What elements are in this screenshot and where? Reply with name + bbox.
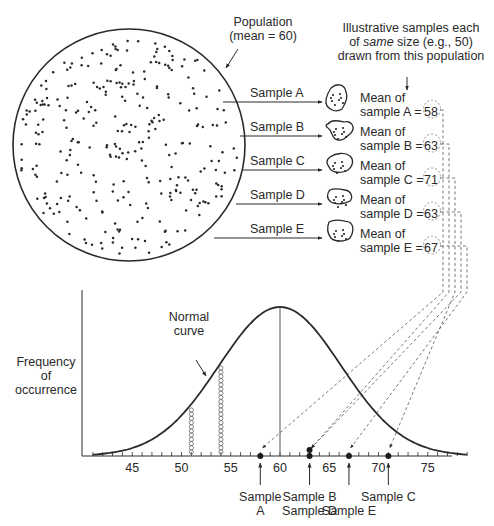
- x-tick-label: 75: [416, 461, 440, 475]
- x-tick-label: 50: [170, 461, 194, 475]
- x-tick-label: 70: [367, 461, 391, 475]
- sample-d-point: [307, 447, 313, 453]
- sample-c-arrow-label: Sample C: [250, 154, 305, 168]
- population-label: Population (mean = 60): [228, 15, 298, 43]
- axis-label-line: A: [235, 504, 285, 518]
- sample-e-mean-value: 67: [424, 241, 438, 255]
- population-label-line1: Population: [228, 15, 298, 29]
- axis-label-sample-e: Sample E: [319, 504, 379, 518]
- sample-e-arrow-label: Sample E: [250, 222, 304, 236]
- y-axis-label-line1: Frequency: [12, 355, 80, 369]
- axis-label-line: Sample E: [319, 504, 379, 518]
- header-text: size (e.g., 50): [394, 35, 473, 49]
- axis-label-line: Sample C: [358, 490, 418, 504]
- axis-label-line: Sample: [235, 490, 285, 504]
- y-axis-label-line2: of: [12, 369, 80, 383]
- sample-a-blob: [326, 85, 347, 111]
- sample-e-point: [346, 453, 352, 459]
- samples-header-line1: Illustrative samples each: [336, 21, 486, 35]
- population-label-line2: (mean = 60): [228, 29, 298, 43]
- sample-d-mean-value: 63: [424, 207, 438, 221]
- population-pointer-arrow: [226, 49, 238, 68]
- axis-label-sample-a: SampleA: [235, 490, 285, 518]
- x-tick-label: 55: [219, 461, 243, 475]
- curve-label-line1: Normal: [164, 310, 214, 324]
- samples-header-line2: of same size (e.g., 50): [336, 35, 486, 49]
- y-axis-label: Frequency of occurrence: [12, 355, 80, 397]
- axis-label-sample-c: Sample C: [358, 490, 418, 504]
- sample-a-mean-eq: sample A =: [360, 105, 422, 119]
- chart: [82, 290, 467, 485]
- sample-a-arrow-label: Sample A: [250, 86, 304, 100]
- x-tick-label: 45: [120, 461, 144, 475]
- curve-label: Normal curve: [164, 310, 214, 338]
- sample-c-mean-label: Mean of: [360, 159, 405, 173]
- diagram-canvas: [0, 0, 494, 526]
- header-emphasis: same: [363, 35, 394, 49]
- sample-a-mean-label: Mean of: [360, 91, 405, 105]
- sample-b-mean-value: 63: [424, 139, 438, 153]
- sample-c-mean-eq: sample C =: [360, 173, 424, 187]
- sample-c-blob: [327, 153, 353, 172]
- x-tick-label: 65: [317, 461, 341, 475]
- highlight-columns: [189, 366, 223, 454]
- sample-b-mean-eq: sample B =: [360, 139, 423, 153]
- sample-b-blob: [326, 121, 353, 140]
- samples-header-line3: drawn from this population: [336, 49, 486, 63]
- sample-a-mean-value: 58: [424, 105, 438, 119]
- sample-b-mean-label: Mean of: [360, 125, 405, 139]
- sample-e-mean-eq: sample E =: [360, 241, 423, 255]
- sample-d-mean-label: Mean of: [360, 193, 405, 207]
- sample-c-mean-value: 71: [424, 173, 438, 187]
- sampling-distribution-diagram: Population (mean = 60) Illustrative samp…: [0, 0, 494, 526]
- sample-e-blob: [328, 220, 353, 241]
- sample-d-mean-eq: sample D =: [360, 207, 424, 221]
- sample-b-point: [307, 453, 313, 459]
- samples-header: Illustrative samples each of same size (…: [336, 21, 486, 63]
- sample-b-arrow-label: Sample B: [250, 120, 304, 134]
- sample-c-point: [385, 453, 391, 459]
- population-circle: [13, 29, 245, 261]
- sample-mean-points: [257, 447, 391, 459]
- header-text: of: [349, 35, 363, 49]
- sample-blobs: [326, 85, 353, 242]
- y-axis-label-line3: occurrence: [12, 383, 80, 397]
- sample-d-blob: [328, 189, 352, 204]
- curve-label-pointer: [196, 360, 206, 376]
- curve-label-line2: curve: [164, 324, 214, 338]
- sample-d-arrow-label: Sample D: [250, 188, 305, 202]
- sample-a-point: [257, 453, 263, 459]
- x-tick-label: 60: [268, 461, 292, 475]
- sample-e-mean-label: Mean of: [360, 227, 405, 241]
- population-dots: [20, 40, 238, 255]
- axis-label-sample-b: Sample B: [280, 490, 340, 504]
